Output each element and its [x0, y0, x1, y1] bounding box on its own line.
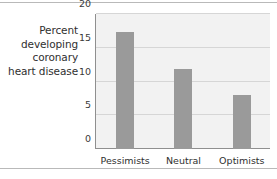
plot-wrapper: 20 15 10 5 0 Pessimists Neutral Optimist… — [95, 14, 270, 149]
x-tick-pessimists: Pessimists — [101, 155, 150, 166]
y-axis-label: Percent developing coronary heart diseas… — [4, 24, 78, 78]
bar-series: Pessimists Neutral Optimists — [96, 14, 270, 149]
chart-figure: Percent developing coronary heart diseas… — [0, 0, 277, 179]
bar-slot-optimists: Optimists — [213, 14, 271, 149]
bar-optimists — [233, 95, 251, 149]
y-tick-20: 20 — [79, 0, 91, 9]
x-tick-neutral: Neutral — [166, 155, 201, 166]
y-axis-label-line-1: Percent — [4, 24, 78, 38]
x-tick-optimists: Optimists — [219, 155, 264, 166]
bar-neutral — [174, 69, 192, 149]
y-tick-15: 15 — [79, 31, 91, 42]
y-tick-0: 0 — [85, 133, 91, 144]
y-axis-label-line-3: coronary — [4, 51, 78, 65]
top-divider — [0, 2, 277, 3]
y-tick-5: 5 — [85, 99, 91, 110]
y-axis-label-line-4: heart disease — [4, 65, 78, 79]
bar-slot-neutral: Neutral — [154, 14, 212, 149]
y-axis-label-line-2: developing — [4, 38, 78, 52]
plot-area: 20 15 10 5 0 Pessimists Neutral Optimist… — [95, 14, 270, 149]
bar-slot-pessimists: Pessimists — [96, 14, 154, 149]
y-tick-10: 10 — [79, 65, 91, 76]
bottom-divider — [0, 168, 277, 169]
bar-pessimists — [116, 32, 134, 149]
